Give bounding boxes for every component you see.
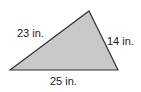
triangle-polygon bbox=[10, 11, 118, 70]
side-label-bottom: 25 in. bbox=[50, 75, 77, 87]
triangle-figure: 23 in. 14 in. 25 in. bbox=[0, 0, 141, 92]
side-label-left: 23 in. bbox=[17, 27, 44, 39]
side-label-right: 14 in. bbox=[107, 35, 134, 47]
